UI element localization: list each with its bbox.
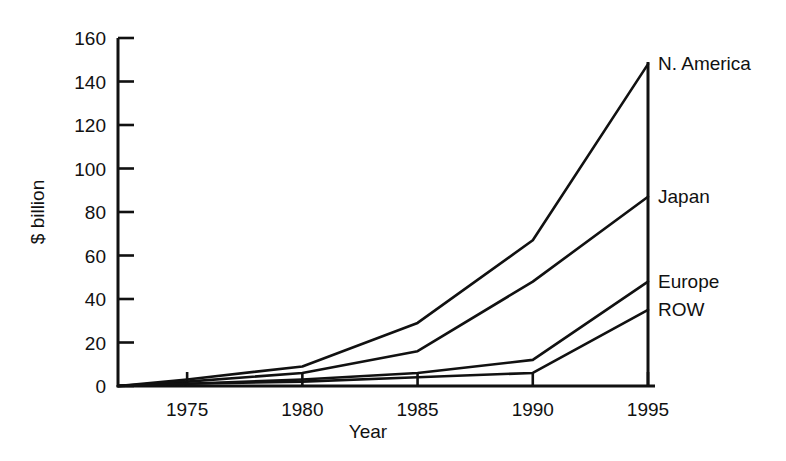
- y-tick-label: 80: [85, 202, 106, 223]
- chart-container: 020406080100120140160 197519801985199019…: [0, 0, 786, 461]
- series-label-row: ROW: [658, 299, 705, 320]
- y-tick-label: 120: [74, 115, 106, 136]
- line-chart-svg: 020406080100120140160 197519801985199019…: [0, 0, 786, 461]
- y-tick-label: 160: [74, 28, 106, 49]
- x-tick-label: 1980: [281, 399, 323, 420]
- series-label-europe: Europe: [658, 271, 719, 292]
- series-label-japan: Japan: [658, 186, 710, 207]
- x-tick-label: 1995: [627, 399, 669, 420]
- y-tick-label: 140: [74, 72, 106, 93]
- x-tick-label: 1975: [166, 399, 208, 420]
- y-tick-label: 60: [85, 246, 106, 267]
- y-tick-label: 20: [85, 333, 106, 354]
- x-axis-title: Year: [349, 421, 388, 442]
- x-tick-label: 1990: [512, 399, 554, 420]
- y-tick-label: 40: [85, 289, 106, 310]
- x-tick-label: 1985: [396, 399, 438, 420]
- y-axis-title: $ billion: [27, 180, 48, 244]
- y-tick-label: 100: [74, 159, 106, 180]
- y-tick-label: 0: [95, 376, 106, 397]
- series-label-n-america: N. America: [658, 53, 751, 74]
